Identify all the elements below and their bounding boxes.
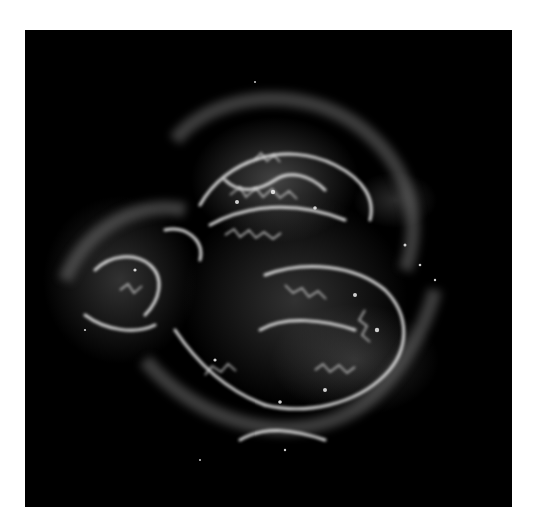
nebula-filaments <box>25 30 512 507</box>
astronomical-image: supernova remnant <box>25 30 512 507</box>
